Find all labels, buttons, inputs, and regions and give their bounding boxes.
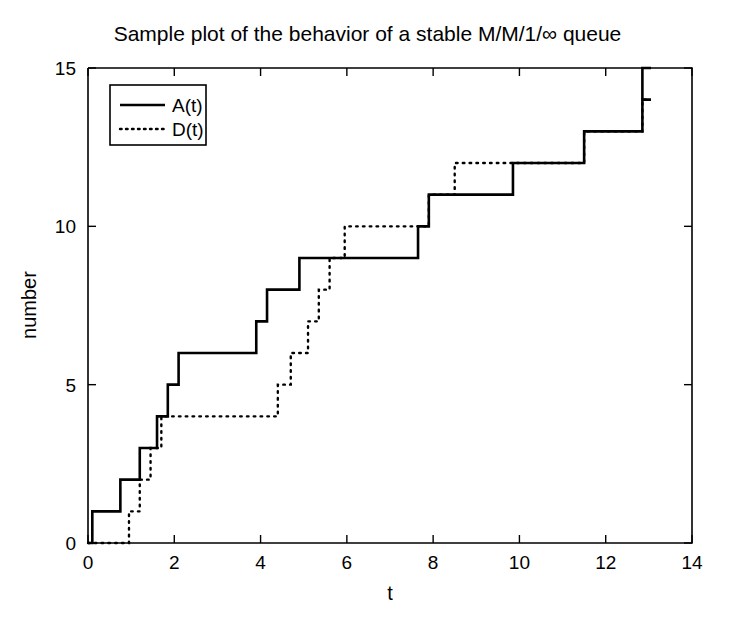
x-axis-tick-labels: 02468101214	[83, 552, 703, 573]
y-tick-label: 10	[55, 216, 76, 237]
x-tick-label: 8	[428, 552, 439, 573]
x-axis-label: t	[387, 582, 393, 604]
x-tick-label: 0	[83, 552, 94, 573]
y-tick-label: 5	[65, 375, 76, 396]
y-axis-label: number	[18, 271, 40, 339]
series-line-d	[88, 100, 651, 543]
legend: A(t) D(t)	[110, 85, 206, 145]
y-axis-tick-labels: 051015	[55, 58, 76, 554]
x-tick-label: 14	[681, 552, 703, 573]
legend-label-d: D(t)	[172, 119, 204, 140]
x-tick-label: 10	[509, 552, 530, 573]
y-tick-label: 0	[65, 533, 76, 554]
final-spike-segment	[642, 68, 651, 100]
plot-area: 02468101214 051015 t number A(t) D(t)	[0, 0, 735, 621]
x-tick-label: 6	[342, 552, 353, 573]
x-tick-label: 2	[169, 552, 180, 573]
y-tick-label: 15	[55, 58, 76, 79]
legend-label-a: A(t)	[172, 95, 203, 116]
x-tick-label: 12	[595, 552, 616, 573]
series-line-a	[88, 100, 651, 543]
figure-canvas: Sample plot of the behavior of a stable …	[0, 0, 735, 621]
x-tick-label: 4	[255, 552, 266, 573]
